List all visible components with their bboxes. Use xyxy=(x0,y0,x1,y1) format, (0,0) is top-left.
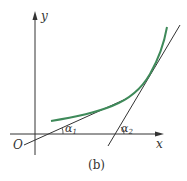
x-axis-arrow-icon xyxy=(155,132,164,137)
curve xyxy=(51,27,167,121)
angle-label-2: α2 xyxy=(121,122,133,136)
origin-label: O xyxy=(13,138,23,152)
y-axis-label: y xyxy=(40,9,48,23)
tangent-line-2 xyxy=(108,25,180,146)
caption: (b) xyxy=(88,158,105,172)
angle-arc-1 xyxy=(62,128,63,134)
diagram-canvas: y x O α1 α2 (b) xyxy=(0,0,187,181)
x-axis-label: x xyxy=(156,137,163,151)
angle-label-1: α1 xyxy=(65,122,77,136)
y-axis-arrow-icon xyxy=(33,11,38,20)
